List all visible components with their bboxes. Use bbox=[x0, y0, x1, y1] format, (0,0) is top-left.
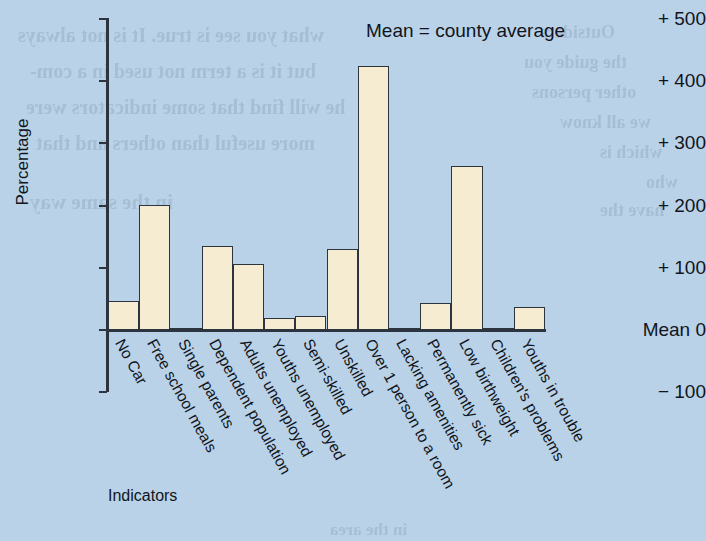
y-tick-label-neg100: − 100 bbox=[610, 381, 706, 403]
y-tick-neg100 bbox=[99, 391, 107, 393]
y-tick-400 bbox=[99, 80, 107, 82]
bar bbox=[139, 205, 170, 330]
bar bbox=[358, 66, 389, 330]
bar bbox=[170, 328, 201, 330]
bar bbox=[202, 246, 233, 330]
x-axis-title: Indicators bbox=[108, 487, 177, 505]
y-tick-label-300: + 300 bbox=[610, 132, 706, 154]
y-tick-500 bbox=[99, 18, 107, 20]
bar bbox=[389, 328, 420, 330]
y-tick-label-400: + 400 bbox=[610, 70, 706, 92]
y-tick-0 bbox=[99, 329, 107, 331]
bar bbox=[514, 307, 545, 330]
y-tick-300 bbox=[99, 142, 107, 144]
bar bbox=[451, 166, 482, 330]
y-tick-label-200: + 200 bbox=[610, 195, 706, 217]
bar bbox=[233, 264, 264, 330]
bar bbox=[264, 318, 295, 330]
y-tick-200 bbox=[99, 205, 107, 207]
y-tick-label-mean: Mean 0 bbox=[610, 319, 706, 341]
y-tick-100 bbox=[99, 267, 107, 269]
chart-plate: Mean = county average Percentage + 500 +… bbox=[0, 0, 706, 541]
bars-container bbox=[108, 18, 545, 330]
bar bbox=[327, 249, 358, 330]
bar bbox=[483, 328, 514, 330]
bar bbox=[295, 316, 326, 330]
y-tick-label-500: + 500 bbox=[610, 8, 706, 30]
y-tick-label-100: + 100 bbox=[610, 257, 706, 279]
bar bbox=[420, 303, 451, 330]
y-axis-title: Percentage bbox=[13, 97, 33, 227]
bar bbox=[108, 301, 139, 330]
